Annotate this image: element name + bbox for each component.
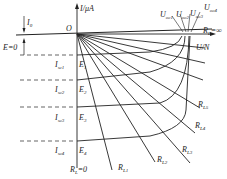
load-line-rl4 — [77, 34, 195, 133]
uoc3-label: Uoc3 — [190, 9, 204, 19]
rl-zero-label: RL=0 — [69, 165, 87, 175]
load-line-rl7 — [77, 34, 205, 63]
isc1-label: Isc1 — [54, 60, 64, 70]
isc3-label: Isc3 — [54, 113, 65, 123]
rl2-label: RL2 — [156, 155, 168, 165]
e3-label: E3 — [78, 113, 87, 123]
i0-arrow-up-icon — [23, 38, 26, 43]
uoc2-label: Uoc2 — [176, 10, 190, 20]
uoc1-label: Uoc1 — [160, 10, 173, 20]
e-zero-label: E=0 — [2, 43, 17, 52]
e2-label: E2 — [78, 85, 87, 95]
i0-arrow-down-icon — [23, 28, 26, 33]
rl3-label: RL3 — [181, 145, 193, 155]
x-axis-label: U/N — [196, 43, 210, 52]
y-axis-label: I/μA — [79, 4, 94, 13]
iv-curve-e4 — [77, 36, 190, 141]
e1-label: E1 — [78, 60, 86, 70]
rl-inf-label: RL=∞ — [202, 26, 222, 36]
isc2-label: Isc2 — [54, 85, 65, 95]
rl1-label: RL1 — [117, 163, 128, 173]
e4-label: E4 — [78, 146, 87, 156]
iv-curve-e2 — [77, 36, 185, 80]
origin-label: O — [66, 24, 72, 33]
iv-characteristic-diagram: I/μA O U/N I0 E=0 Isc1 Isc2 Isc3 Isc4 E1… — [0, 0, 227, 179]
uoc4-label: Uoc4 — [204, 3, 218, 13]
isc-dashed-lines — [20, 55, 76, 141]
current-axis-arrow-icon — [75, 3, 79, 9]
rl5-label: RL5 — [197, 100, 209, 110]
i0-label: I0 — [26, 18, 33, 28]
rl4-label: RL4 — [194, 121, 206, 131]
isc4-label: Isc4 — [54, 146, 65, 156]
